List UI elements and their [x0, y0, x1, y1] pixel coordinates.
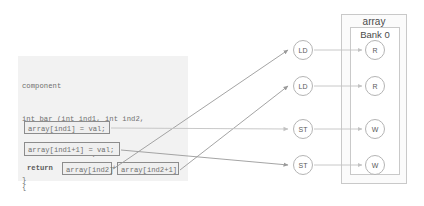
operation-node-ld-2: LD [293, 76, 313, 96]
code-expr-store-2: array[ind1+1] = val; [24, 142, 120, 156]
memory-port-w-2: W [365, 155, 385, 175]
code-return-keyword: return [27, 164, 53, 172]
memory-port-r-1: R [365, 40, 385, 60]
code-close-brace: } [22, 176, 26, 184]
array-memory-label: array [341, 16, 407, 27]
code-expr-load-1: array[ind2] [62, 162, 112, 175]
memory-port-r-2: R [365, 76, 385, 96]
code-expr-store-1: array[ind1] = val; [24, 121, 110, 134]
diagram-canvas: component int bar (int ind1, int ind2, i… [0, 0, 424, 206]
code-plus-operator: + [112, 164, 116, 172]
code-line-open-brace: { [22, 182, 222, 193]
operation-node-ld-1: LD [293, 40, 313, 60]
operation-node-st-1: ST [293, 119, 313, 139]
memory-port-w-1: W [365, 119, 385, 139]
memory-bank-0-label: Bank 0 [350, 29, 400, 40]
operation-node-st-2: ST [293, 155, 313, 175]
code-line-component: component [22, 81, 222, 92]
code-expr-load-2: array[ind2+1] [117, 162, 179, 175]
